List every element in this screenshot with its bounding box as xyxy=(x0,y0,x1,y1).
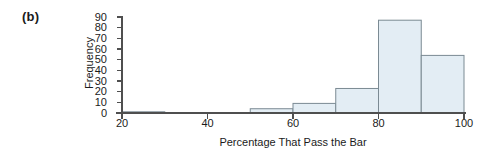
bar xyxy=(421,55,464,113)
x-axis-label: Percentage That Pass the Bar xyxy=(122,136,464,148)
bar-series xyxy=(122,20,464,113)
chart-page: (b) Frequency 0102030405060708090 204060… xyxy=(0,0,495,162)
bar xyxy=(379,20,422,113)
bar xyxy=(250,109,293,113)
bar xyxy=(293,103,336,113)
bar xyxy=(336,88,379,113)
histogram-chart: Frequency 0102030405060708090 2040608010… xyxy=(0,0,495,162)
